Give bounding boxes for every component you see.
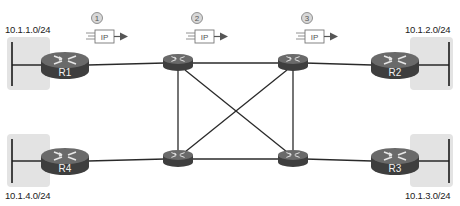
- link-r1-core-tl: [88, 63, 165, 65]
- router-r4: R4: [41, 148, 89, 175]
- step-number: 3: [305, 14, 310, 23]
- router-label-r1: R1: [59, 67, 72, 78]
- link-r4-core-bl: [88, 159, 165, 161]
- router-label-r4: R4: [59, 163, 72, 174]
- arrow-right-icon: [330, 33, 338, 41]
- router-core-top-left: [163, 54, 193, 71]
- motion-lines-icon: [86, 33, 95, 39]
- packet-label: IP: [311, 33, 319, 42]
- motion-lines-icon: [186, 33, 195, 39]
- packet-step-3: 3 IP: [296, 13, 338, 44]
- link-core-tr-r2: [305, 63, 372, 65]
- router-core-bottom-left: [163, 150, 193, 167]
- motion-lines-icon: [296, 33, 305, 39]
- links: [88, 63, 372, 161]
- router-r3: R3: [371, 148, 419, 175]
- router-core-top-right: [278, 54, 308, 71]
- router-r1: R1: [41, 52, 89, 79]
- network-diagram: 10.1.1.0/24 10.1.2.0/24 10.1.3.0/24 10.1…: [0, 0, 460, 206]
- arrow-right-icon: [220, 33, 228, 41]
- step-number: 2: [195, 14, 200, 23]
- router-label-r2: R2: [389, 67, 402, 78]
- link-core-br-r3: [305, 159, 372, 161]
- router-r2: R2: [371, 52, 419, 79]
- router-core-bottom-right: [278, 150, 308, 167]
- step-number: 1: [95, 14, 100, 23]
- packet-step-2: 2 IP: [186, 13, 228, 44]
- packet-label: IP: [101, 33, 109, 42]
- packet-label: IP: [201, 33, 209, 42]
- router-label-r3: R3: [389, 163, 402, 174]
- arrow-right-icon: [120, 33, 128, 41]
- packet-step-1: 1 IP: [86, 13, 128, 44]
